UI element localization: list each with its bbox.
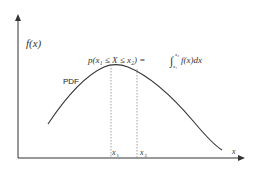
svg-text:x₂: x₂ (174, 52, 179, 57)
svg-text:x: x (139, 148, 144, 157)
y-axis-label: f(x) (26, 37, 42, 50)
x-axis-arrow-icon (238, 155, 245, 161)
svg-text:1: 1 (117, 153, 120, 158)
x2-marker-label: x 2 (139, 148, 148, 158)
x1-marker-label: x 1 (111, 148, 120, 158)
svg-text:x₁: x₁ (172, 64, 177, 69)
svg-text:f(x)dx: f(x)dx (181, 55, 202, 65)
curve-label: PDF (63, 77, 79, 86)
x-axis-label: x (231, 147, 236, 156)
svg-text:p(x₁ ≤ X ≤ x₂) =: p(x₁ ≤ X ≤ x₂) = (87, 55, 145, 65)
y-axis-arrow-icon (15, 14, 21, 21)
svg-text:2: 2 (145, 153, 148, 158)
svg-text:x: x (111, 148, 116, 157)
pdf-diagram: f(x) PDF p(x₁ ≤ X ≤ x₂) = ∫ x₂ x₁ f(x)dx… (0, 0, 253, 176)
